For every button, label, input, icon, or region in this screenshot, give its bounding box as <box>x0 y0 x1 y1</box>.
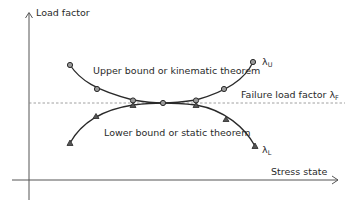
lambda-lower-symbol: λ <box>262 144 268 155</box>
failure-load-subscript: F <box>335 94 339 102</box>
lower-curve-markers <box>67 103 258 149</box>
lambda-lower-subscript: L <box>268 149 272 157</box>
x-axis-label: Stress state <box>271 167 327 177</box>
lambda-lower-label: λL <box>262 145 271 155</box>
failure-load-label: Failure load factor λF <box>241 90 339 100</box>
load-factor-diagram <box>0 0 345 210</box>
upper-curve-label: Upper bound or kinematic theorem <box>93 66 260 76</box>
lambda-upper-symbol: λ <box>262 56 268 67</box>
lambda-upper-label: λU <box>262 57 272 67</box>
failure-load-text: Failure load factor λ <box>241 89 335 100</box>
lambda-upper-subscript: U <box>268 61 273 69</box>
lower-curve-label: Lower bound or static theorem <box>104 128 250 138</box>
y-axis-label: Load factor <box>36 8 90 18</box>
lower-bound-curve <box>70 103 255 146</box>
y-axis <box>26 13 33 201</box>
x-axis <box>12 176 338 184</box>
